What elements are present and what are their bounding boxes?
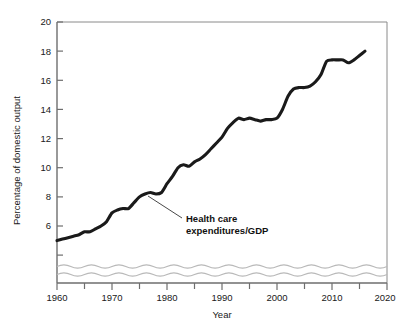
y-axis-break-squiggle xyxy=(57,265,387,276)
x-tick-label: 2010 xyxy=(321,292,342,303)
x-axis-title: Year xyxy=(212,309,231,320)
y-tick-label: 6 xyxy=(46,220,51,231)
y-axis-ticks xyxy=(57,22,63,255)
x-tick-label: 1970 xyxy=(101,292,122,303)
y-tick-label: 10 xyxy=(40,162,51,173)
x-tick-label: 1980 xyxy=(156,292,177,303)
x-tick-label: 1990 xyxy=(211,292,232,303)
x-axis-tick-labels: 1960 1970 1980 1990 2000 2010 2020 xyxy=(46,292,395,303)
x-axis-ticks xyxy=(57,283,387,290)
y-tick-label: 18 xyxy=(40,46,51,57)
x-tick-label: 1960 xyxy=(46,292,67,303)
y-axis-tick-labels: 20 18 16 14 12 10 8 6 xyxy=(40,16,51,231)
annotation-label-line1: Health care xyxy=(186,213,237,224)
annotation-leader-line xyxy=(148,196,182,218)
y-tick-label: 16 xyxy=(40,75,51,86)
annotation-label-line2: expenditures/GDP xyxy=(186,225,269,236)
line-chart: 20 18 16 14 12 10 8 6 Percentage of dome… xyxy=(0,0,403,326)
chart-container: 20 18 16 14 12 10 8 6 Percentage of dome… xyxy=(0,0,403,326)
y-tick-label: 8 xyxy=(46,191,51,202)
y-tick-label: 14 xyxy=(40,104,51,115)
x-tick-label: 2020 xyxy=(374,292,395,303)
y-tick-label: 12 xyxy=(40,133,51,144)
y-tick-label: 20 xyxy=(40,16,51,27)
x-tick-label: 2000 xyxy=(266,292,287,303)
y-axis-title: Percentage of domestic output xyxy=(11,96,22,225)
